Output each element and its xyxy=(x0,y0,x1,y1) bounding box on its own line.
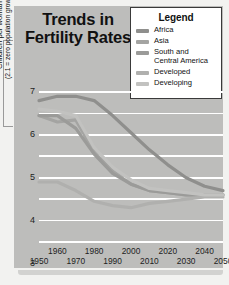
legend-item-label: Africa xyxy=(154,26,173,35)
x-axis-tick-label: 1990 xyxy=(103,256,122,266)
legend-item: Developed xyxy=(135,68,217,77)
x-axis-labels: 1960198020002020204019501970199020102030… xyxy=(39,246,223,270)
y-axis-tick-label: 7 xyxy=(30,86,35,96)
x-axis-tick-label: 1950 xyxy=(30,256,49,266)
legend-item: Asia xyxy=(135,37,217,46)
legend-swatch-icon xyxy=(136,82,149,86)
x-axis-tick-label: 2050 xyxy=(214,256,229,266)
x-axis-tick-label: 1960 xyxy=(48,246,67,256)
y-axis-title: Children per woman (2.1 = zero populatio… xyxy=(0,0,13,103)
x-axis-tick-label: 1970 xyxy=(66,256,85,266)
legend-heading: Legend xyxy=(135,12,217,23)
legend-item: Developing xyxy=(135,79,217,88)
x-axis-tick-label: 2020 xyxy=(158,246,177,256)
legend-swatch-icon xyxy=(136,40,149,44)
plot-area: 01234567 xyxy=(39,92,223,242)
legend-item-label: Developed xyxy=(154,68,190,77)
panel-shadow xyxy=(18,270,223,275)
y-axis-tick-label: 5 xyxy=(30,172,35,182)
y-axis-title-line-2: (2.1 = zero population growth) xyxy=(4,0,12,103)
legend-item-label: Developing xyxy=(154,79,192,88)
fertility-rates-chart-figure: Trends in Fertility Rates Legend AfricaA… xyxy=(0,0,229,285)
legend-item-label: South and Central America xyxy=(154,48,208,65)
x-axis-tick-label: 2040 xyxy=(195,246,214,256)
legend-item: South and Central America xyxy=(135,48,217,65)
title-line-1: Trends in xyxy=(14,10,142,28)
x-axis-tick-label: 1980 xyxy=(85,246,104,256)
legend-swatch-icon xyxy=(136,51,149,55)
series-lines xyxy=(39,92,223,242)
legend: Legend AfricaAsiaSouth and Central Ameri… xyxy=(130,7,222,99)
x-axis-tick-label: 2030 xyxy=(177,256,196,266)
y-axis-tick-label: 6 xyxy=(30,129,35,139)
series-line xyxy=(39,96,223,190)
x-axis-tick-label: 2010 xyxy=(140,256,159,266)
x-axis-tick-label: 2000 xyxy=(122,246,141,256)
legend-item: Africa xyxy=(135,26,217,35)
legend-swatch-icon xyxy=(136,71,149,75)
page-title: Trends in Fertility Rates xyxy=(14,10,142,46)
title-line-2: Fertility Rates xyxy=(14,28,142,46)
y-axis-tick-label: 4 xyxy=(30,215,35,225)
legend-items: AfricaAsiaSouth and Central AmericaDevel… xyxy=(135,26,217,88)
legend-item-label: Asia xyxy=(154,37,169,46)
legend-swatch-icon xyxy=(136,29,149,33)
